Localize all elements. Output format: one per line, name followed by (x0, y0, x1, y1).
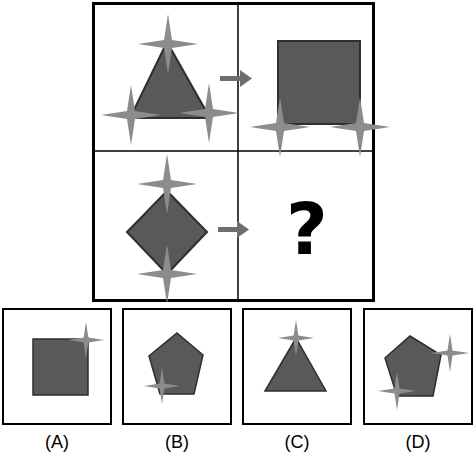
option-d[interactable] (363, 308, 473, 425)
option-b[interactable] (122, 308, 232, 425)
option-a-label: (A) (2, 432, 112, 453)
option-d-label: (D) (363, 432, 473, 453)
square-shape (33, 339, 88, 395)
square-shape (278, 41, 360, 124)
question-mark: ? (286, 187, 328, 271)
option-b-label: (B) (122, 432, 232, 453)
option-c-label: (C) (242, 432, 352, 453)
option-c[interactable] (242, 308, 352, 425)
option-a[interactable] (2, 308, 112, 425)
puzzle-grid: ? (92, 2, 476, 302)
